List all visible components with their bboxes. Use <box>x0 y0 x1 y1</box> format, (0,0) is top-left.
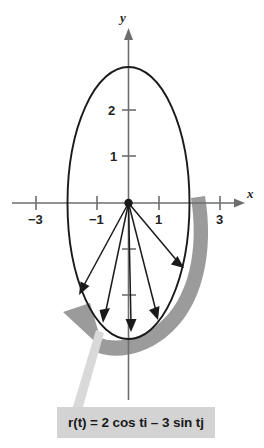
x-axis-label: x <box>246 186 254 201</box>
y-axis-label: y <box>118 10 126 25</box>
y-tick-label-2: 2 <box>108 103 115 118</box>
equation-label-box: r(t) = 2 cos ti – 3 sin tj <box>57 407 215 438</box>
x-tick-label-1: 1 <box>155 212 162 227</box>
orientation-arrow <box>63 196 208 356</box>
parametric-curve-figure: x y −3 −1 1 3 2 1 <box>0 0 264 448</box>
vector-3 <box>126 203 137 332</box>
label-leader-line <box>72 330 104 410</box>
equation-label-text: r(t) = 2 cos ti – 3 sin tj <box>68 415 204 430</box>
y-tick-label-1: 1 <box>110 149 117 164</box>
x-tick-label-3: 3 <box>216 212 223 227</box>
vector-2 <box>100 203 129 323</box>
origin-point <box>124 199 132 207</box>
x-tick-label--3: −3 <box>28 212 43 227</box>
x-tick-label--1: −1 <box>89 212 104 227</box>
